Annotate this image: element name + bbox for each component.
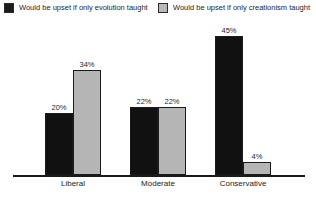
legend-item-evolution: Would be upset if only evolution taught (4, 3, 148, 13)
bar-conservative-evolution: 45% (215, 36, 243, 175)
bar-liberal-evolution: 20% (45, 113, 73, 175)
bar-group-moderate: 22% 22% (130, 22, 186, 175)
legend-label-evolution: Would be upset if only evolution taught (19, 3, 148, 13)
bar-liberal-creationism: 34% (73, 70, 101, 175)
x-axis-label-moderate: Moderate (130, 179, 186, 189)
bar-value-liberal-creationism: 34% (79, 60, 94, 69)
legend-item-creationism: Would be upset if only creationism taugh… (158, 3, 310, 13)
bar-group-conservative: 45% 4% (215, 22, 271, 175)
chart-legend: Would be upset if only evolution taught … (0, 0, 316, 20)
legend-label-creationism: Would be upset if only creationism taugh… (173, 3, 310, 13)
bar-value-moderate-creationism: 22% (164, 97, 179, 106)
x-axis-label-liberal: Liberal (45, 179, 101, 189)
bar-conservative-creationism: 4% (243, 162, 271, 175)
bar-value-moderate-evolution: 22% (136, 97, 151, 106)
bar-moderate-creationism: 22% (158, 107, 186, 175)
bar-chart: Would be upset if only evolution taught … (0, 0, 316, 201)
bar-group-liberal: 20% 34% (45, 22, 101, 175)
bar-value-liberal-evolution: 20% (51, 103, 66, 112)
x-axis-label-conservative: Conservative (215, 179, 271, 189)
bar-moderate-evolution: 22% (130, 107, 158, 175)
x-axis-baseline (13, 175, 305, 177)
bar-value-conservative-evolution: 45% (221, 26, 236, 35)
plot-area: 20% 34% 22% 22% 45% (13, 22, 305, 175)
black-square-swatch-icon (4, 3, 14, 13)
gray-square-swatch-icon (158, 3, 168, 13)
bar-value-conservative-creationism: 4% (252, 152, 263, 161)
